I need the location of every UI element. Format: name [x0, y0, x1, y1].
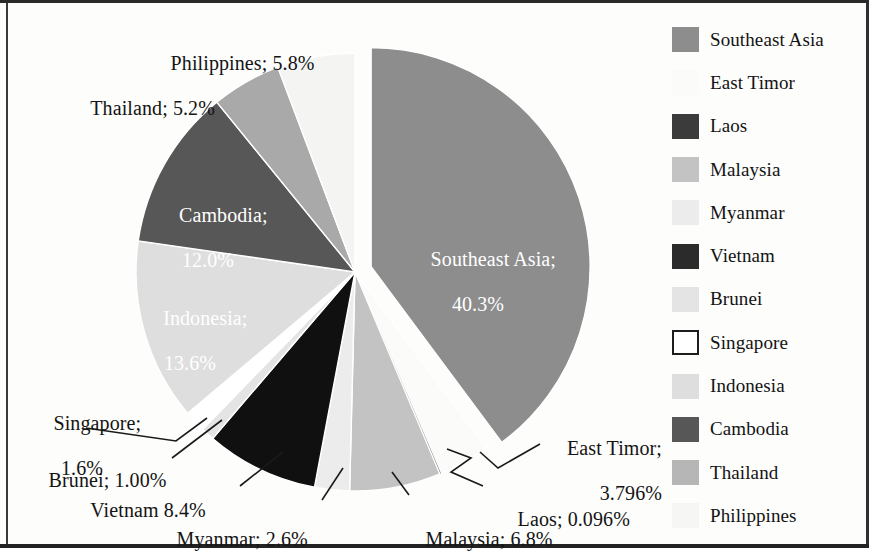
- legend-item-label: Singapore: [710, 332, 788, 354]
- legend-item-east-timor[interactable]: East Timor: [672, 61, 862, 104]
- legend-swatch-icon: [672, 374, 699, 399]
- slice-label-east-timor: East Timor; 3.796%: [534, 415, 662, 549]
- legend-item-myanmar[interactable]: Myanmar: [672, 191, 862, 234]
- legend-swatch-icon: [672, 114, 699, 139]
- slice-label-southeast-asia: Southeast Asia; 40.3%: [388, 226, 568, 360]
- legend-item-label: Southeast Asia: [710, 29, 824, 51]
- legend-item-label: Laos: [710, 115, 747, 137]
- legend-swatch-icon: [672, 417, 699, 442]
- legend-item-southeast-asia[interactable]: Southeast Asia: [672, 18, 862, 61]
- legend-swatch-icon: [672, 244, 699, 269]
- legend-item-label: Vietnam: [710, 245, 775, 267]
- legend: Southeast AsiaEast TimorLaosMalaysiaMyan…: [672, 18, 862, 538]
- legend-swatch-icon: [672, 460, 699, 485]
- slice-label-myanmar: Myanmar; 2.6%: [146, 506, 308, 555]
- legend-swatch-icon: [672, 70, 699, 95]
- leader-line-east-timor: [480, 444, 540, 468]
- legend-swatch-icon: [672, 27, 699, 52]
- legend-item-cambodia[interactable]: Cambodia: [672, 408, 862, 451]
- slice-label-thailand: Thailand; 5.2%: [60, 75, 215, 142]
- legend-item-indonesia[interactable]: Indonesia: [672, 364, 862, 407]
- legend-swatch-icon: [672, 503, 699, 528]
- legend-swatch-icon: [672, 287, 699, 312]
- legend-item-philippines[interactable]: Philippines: [672, 494, 862, 537]
- legend-item-laos[interactable]: Laos: [672, 105, 862, 148]
- legend-item-label: Cambodia: [710, 418, 789, 440]
- legend-item-label: Indonesia: [710, 375, 785, 397]
- legend-item-label: Thailand: [710, 462, 778, 484]
- legend-item-vietnam[interactable]: Vietnam: [672, 234, 862, 277]
- legend-item-label: East Timor: [710, 72, 795, 94]
- legend-swatch-icon: [672, 157, 699, 182]
- pie-chart: Philippines; 5.8% Thailand; 5.2% Cambodi…: [0, 0, 664, 548]
- legend-item-label: Myanmar: [710, 202, 785, 224]
- legend-item-singapore[interactable]: Singapore: [672, 321, 862, 364]
- legend-item-label: Brunei: [710, 288, 762, 310]
- legend-swatch-icon: [672, 330, 699, 355]
- legend-item-label: Philippines: [710, 505, 797, 527]
- legend-item-malaysia[interactable]: Malaysia: [672, 148, 862, 191]
- legend-item-brunei[interactable]: Brunei: [672, 278, 862, 321]
- legend-item-thailand[interactable]: Thailand: [672, 451, 862, 494]
- legend-item-label: Malaysia: [710, 159, 780, 181]
- legend-swatch-icon: [672, 200, 699, 225]
